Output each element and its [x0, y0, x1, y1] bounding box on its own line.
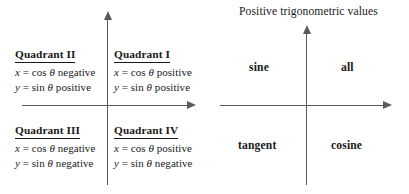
right-vertical-axis-arrowhead	[303, 25, 311, 34]
quadrant-2-title: Quadrant II	[15, 47, 75, 63]
right-quadrant-3-tangent-label: tangent	[238, 139, 276, 152]
quadrant-2-sin-line: y = sin θ positive	[15, 80, 95, 94]
right-horizontal-axis-arrowhead	[383, 101, 392, 109]
left-vertical-axis-arrowhead	[104, 11, 112, 20]
quadrant-3-block: Quadrant III x = cos θ negative y = sin …	[15, 119, 95, 170]
quadrant-3-cos-line: x = cos θ negative	[15, 141, 95, 155]
quadrant-1-cos-line: x = cos θ positive	[114, 65, 192, 79]
quadrant-1-block: Quadrant I x = cos θ positive y = sin θ …	[114, 43, 192, 94]
right-horizontal-axis	[220, 105, 384, 106]
right-quadrant-1-all-label: all	[341, 61, 354, 74]
trigonometry-quadrant-figure: Quadrant II x = cos θ negative y = sin θ…	[0, 0, 409, 194]
quadrant-1-sin-line: y = sin θ positive	[114, 80, 192, 94]
positive-trig-values-title: Positive trigonometric values	[239, 5, 378, 18]
quadrant-4-sin-line: y = sin θ negative	[114, 156, 193, 170]
quadrant-1-title: Quadrant I	[114, 47, 170, 63]
quadrant-4-cos-line: x = cos θ positive	[114, 141, 193, 155]
right-vertical-axis	[306, 32, 307, 185]
left-vertical-axis	[107, 18, 108, 185]
left-horizontal-axis-arrowhead	[187, 101, 196, 109]
left-horizontal-axis	[22, 105, 188, 106]
quadrant-3-sin-line: y = sin θ negative	[15, 156, 95, 170]
quadrant-4-block: Quadrant IV x = cos θ positive y = sin θ…	[114, 119, 193, 170]
quadrant-3-title: Quadrant III	[15, 123, 80, 139]
quadrant-2-block: Quadrant II x = cos θ negative y = sin θ…	[15, 43, 95, 94]
right-quadrant-2-sine-label: sine	[249, 61, 269, 74]
right-quadrant-4-cosine-label: cosine	[331, 139, 362, 152]
quadrant-4-title: Quadrant IV	[114, 123, 178, 139]
quadrant-2-cos-line: x = cos θ negative	[15, 65, 95, 79]
